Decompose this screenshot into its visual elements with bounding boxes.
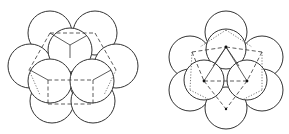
right-packing-figure [169, 11, 283, 129]
sphere [28, 59, 72, 103]
sphere-packing-diagram [0, 0, 289, 134]
sphere [70, 59, 114, 103]
left-packing-figure [8, 11, 138, 123]
